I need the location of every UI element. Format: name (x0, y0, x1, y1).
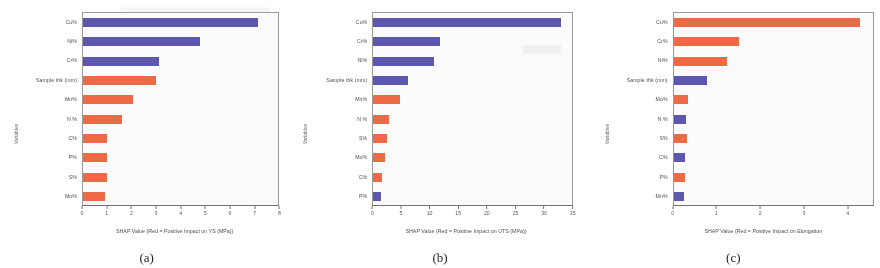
tick-label: 4 (846, 210, 849, 216)
tick-mark (458, 206, 459, 209)
tick-label: 3 (803, 210, 806, 216)
tick-label: 8 (278, 210, 281, 216)
bar-row (373, 109, 571, 128)
tick-mark (106, 206, 107, 209)
bar (83, 115, 122, 124)
bar (83, 192, 105, 201)
tick-label: 25 (513, 210, 519, 216)
tick-label: 35 (570, 210, 576, 216)
bar (674, 173, 685, 182)
bar (674, 76, 707, 85)
y-axis-tick-labels-a: Cu%Ni%Cr%Sample thk (mm)Mn%N %C%P%S%Mo% (0, 12, 82, 206)
y-axis-tick-label: Cu% (293, 12, 367, 31)
tick-label: 20 (484, 210, 490, 216)
bar-row (373, 129, 571, 148)
bar (83, 18, 258, 27)
y-axis-tick-labels-b: Cu%Cr%Ni%Sample thk (mm)Mn%N %S%Mo%C%P% (293, 12, 372, 206)
x-axis-tick: 3 (803, 206, 806, 216)
x-axis-tick: 2 (759, 206, 762, 216)
y-axis-tick-label: Mn% (587, 187, 668, 206)
bar-row (83, 148, 278, 167)
bar (373, 115, 388, 124)
tick-mark (515, 206, 516, 209)
y-axis-tick-label: Cu% (587, 12, 668, 31)
bar-row (83, 71, 278, 90)
panel-caption-a: (a) (0, 250, 293, 266)
tick-label: 3 (155, 210, 158, 216)
tick-label: 30 (541, 210, 547, 216)
tick-mark (229, 206, 230, 209)
tick-mark (544, 206, 545, 209)
tick-mark (760, 206, 761, 209)
y-axis-tick-label: Cr% (587, 31, 668, 50)
y-axis-tick-label: Sample thk (mm) (0, 70, 77, 89)
x-axis-tick: 2 (130, 206, 133, 216)
x-axis-ticks-a: 012345678 (82, 206, 279, 219)
x-axis-tick: 5 (204, 206, 207, 216)
bar-series-c (674, 13, 873, 206)
y-axis-tick-label: N % (293, 109, 367, 128)
x-axis-tick: 1 (105, 206, 108, 216)
bar-row (674, 148, 873, 167)
bar (373, 173, 381, 182)
tick-mark (372, 206, 373, 209)
x-axis-tick: 5 (399, 206, 402, 216)
tick-mark (131, 206, 132, 209)
tick-mark (279, 206, 280, 209)
bar (674, 192, 684, 201)
tick-mark (180, 206, 181, 209)
y-axis-tick-label: Ni% (293, 51, 367, 70)
x-axis-ticks-b: 05101520253035 (372, 206, 572, 219)
tick-label: 1 (715, 210, 718, 216)
bar-row (373, 187, 571, 206)
y-axis-tick-label: S% (293, 128, 367, 147)
y-axis-tick-label: P% (0, 148, 77, 167)
y-axis-tick-label: N % (587, 109, 668, 128)
panel-caption-c: (c) (587, 250, 880, 266)
tick-label: 2 (130, 210, 133, 216)
x-axis-tick: 30 (541, 206, 547, 216)
bar-row (674, 52, 873, 71)
tick-label: 1 (105, 210, 108, 216)
y-axis-tick-label: Mo% (293, 148, 367, 167)
bar-row (674, 187, 873, 206)
tick-mark (205, 206, 206, 209)
bar-row (83, 109, 278, 128)
tick-label: 6 (229, 210, 232, 216)
x-axis-tick: 8 (278, 206, 281, 216)
x-axis-tick: 0 (81, 206, 84, 216)
tick-mark (81, 206, 82, 209)
bar (373, 76, 408, 85)
bar-row (373, 148, 571, 167)
tick-label: 15 (455, 210, 461, 216)
tick-label: 2 (759, 210, 762, 216)
x-axis-tick: 3 (155, 206, 158, 216)
x-axis-title-c: SHAP Value (Red = Positive Impact on Elo… (587, 228, 880, 234)
bar (373, 192, 381, 201)
tick-label: 4 (179, 210, 182, 216)
x-axis-tick: 0 (671, 206, 674, 216)
tick-label: 5 (204, 210, 207, 216)
x-axis-tick: 6 (229, 206, 232, 216)
bar (83, 57, 159, 66)
y-axis-tick-label: Mo% (0, 187, 77, 206)
plot-area-b (372, 12, 572, 206)
bar (674, 134, 687, 143)
y-axis-tick-label: Cu% (0, 12, 77, 31)
y-axis-tick-label: Mo% (587, 90, 668, 109)
tick-mark (716, 206, 717, 209)
bar-row (674, 13, 873, 32)
bar-row (373, 13, 571, 32)
tick-mark (400, 206, 401, 209)
bar-row (674, 32, 873, 51)
x-axis-tick: 20 (484, 206, 490, 216)
chart-panel-b: Variables Cu%Cr%Ni%Sample thk (mm)Mn%N %… (293, 0, 586, 268)
y-axis-tick-label: C% (293, 167, 367, 186)
y-axis-tick-label: Ni% (587, 51, 668, 70)
bar (83, 173, 107, 182)
bar (83, 37, 200, 46)
tick-label: 10 (427, 210, 433, 216)
bar (674, 153, 685, 162)
bar-row (674, 90, 873, 109)
bar-row (373, 52, 571, 71)
